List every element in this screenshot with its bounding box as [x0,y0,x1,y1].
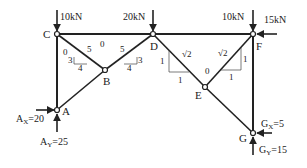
member-BA [57,70,105,110]
de-run-label: 1 [178,75,183,85]
node-label-A: A [62,105,70,117]
load-label-D: 20kN [123,11,145,22]
node-label-G: G [239,132,247,144]
node-E [203,85,208,90]
db-rise-label: 3 [138,55,143,65]
reaction-label-Gy: GY=15 [259,144,287,157]
ef-rise-label: 1 [243,54,248,64]
ef-zero-label: 0 [205,66,210,76]
node-D [151,32,156,37]
node-G [251,131,256,136]
node-A [55,108,60,113]
node-F [251,32,256,37]
node-label-B: B [103,75,110,87]
ef-run-label: 1 [229,72,234,82]
reaction-label-Ay: AY=25 [40,136,68,149]
reaction-label-Ax: AX=20 [16,113,44,126]
truss-diagram: 5 3 4 5 3 4 √2 1 1 √2 1 1 0 0 0 10kN 20k… [0,0,307,168]
cd-zero-label: 0 [100,39,105,49]
cb-rise-label: 3 [68,55,73,65]
reaction-label-Gx: GX=5 [261,118,284,131]
node-label-D: D [150,40,158,52]
ef-hyp-label: √2 [218,48,227,58]
load-label-F-vertical: 10kN [222,11,244,22]
node-labels: C D F B E A G [43,28,262,144]
member-EG [205,87,253,133]
de-rise-label: 1 [160,56,165,66]
cb-zero-label: 0 [63,47,68,57]
db-run-label: 4 [127,63,132,73]
node-B [103,68,108,73]
de-hyp-label: √2 [182,49,191,59]
load-label-C: 10kN [60,11,82,22]
node-label-E: E [195,89,202,101]
node-label-F: F [256,40,262,52]
cb-hyp-label: 5 [87,44,92,54]
db-hyp-label: 5 [120,44,125,54]
node-C [55,32,60,37]
cb-run-label: 4 [78,63,83,73]
load-label-F-horizontal: 15kN [264,14,286,25]
node-label-C: C [43,28,50,40]
